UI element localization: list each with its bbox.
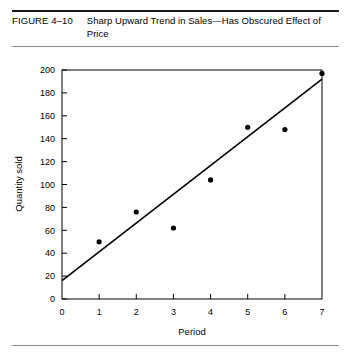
x-tick-label: 1 bbox=[97, 307, 102, 317]
y-tick-label: 20 bbox=[45, 271, 55, 281]
caption-bottom-rule bbox=[12, 46, 339, 47]
data-point bbox=[208, 177, 213, 182]
x-tick-label: 3 bbox=[171, 307, 176, 317]
x-tick-label: 6 bbox=[282, 307, 287, 317]
y-tick-label: 120 bbox=[40, 157, 55, 167]
data-points-group bbox=[97, 71, 325, 245]
caption-top-rule bbox=[12, 10, 339, 12]
figure-bottom-rule bbox=[12, 345, 339, 346]
x-axis-title: Period bbox=[178, 326, 205, 337]
data-point bbox=[245, 125, 250, 130]
x-tick-label: 2 bbox=[134, 307, 139, 317]
y-tick-label: 160 bbox=[40, 111, 55, 121]
data-point bbox=[134, 209, 139, 214]
y-axis-title: Quantity sold bbox=[13, 156, 24, 211]
x-tick-label: 4 bbox=[208, 307, 213, 317]
x-tick-label: 0 bbox=[59, 307, 64, 317]
x-axis-ticks: 01234567 bbox=[59, 294, 324, 317]
figure-number-label: FIGURE 4–10 bbox=[12, 14, 73, 27]
y-tick-label: 180 bbox=[40, 88, 55, 98]
chart-plot-area: 020406080100120140160180200 01234567 Qua… bbox=[0, 52, 351, 342]
y-tick-label: 40 bbox=[45, 248, 55, 258]
scatter-chart-svg: 020406080100120140160180200 01234567 Qua… bbox=[0, 52, 351, 342]
trend-line bbox=[62, 79, 322, 281]
figure-container: FIGURE 4–10 Sharp Upward Trend in Sales—… bbox=[0, 0, 351, 364]
y-tick-label: 200 bbox=[40, 65, 55, 75]
y-tick-label: 0 bbox=[50, 294, 55, 304]
x-tick-label: 7 bbox=[319, 307, 324, 317]
plot-frame bbox=[62, 70, 322, 299]
data-point bbox=[171, 225, 176, 230]
y-tick-label: 140 bbox=[40, 134, 55, 144]
y-axis-ticks: 020406080100120140160180200 bbox=[40, 65, 67, 304]
data-point bbox=[97, 239, 102, 244]
y-tick-label: 60 bbox=[45, 226, 55, 236]
data-point bbox=[319, 71, 324, 76]
figure-caption: FIGURE 4–10 Sharp Upward Trend in Sales—… bbox=[12, 14, 342, 40]
x-tick-label: 5 bbox=[245, 307, 250, 317]
figure-title: Sharp Upward Trend in Sales—Has Obscured… bbox=[87, 14, 327, 40]
y-tick-label: 100 bbox=[40, 180, 55, 190]
data-point bbox=[282, 127, 287, 132]
y-tick-label: 80 bbox=[45, 203, 55, 213]
